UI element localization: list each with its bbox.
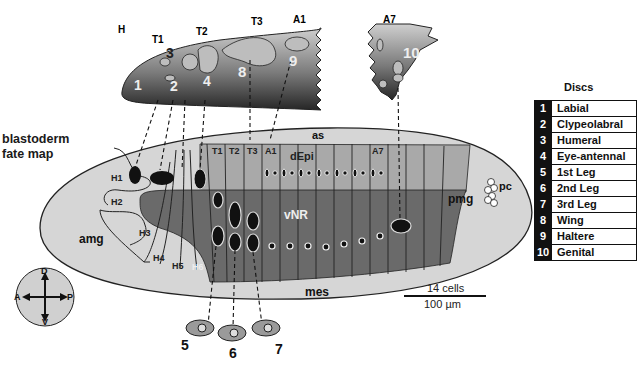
labial-anlage xyxy=(129,166,141,184)
legend-number: 5 xyxy=(535,165,552,181)
legend-row: 51st Leg xyxy=(535,165,637,181)
trunk-label-t1: T1 xyxy=(212,146,223,156)
trunk-label-a7: A7 xyxy=(372,146,384,156)
figure-title-line1: blastoderm xyxy=(2,132,69,147)
legend-number: 1 xyxy=(535,101,552,117)
larva-label-a1: A1 xyxy=(293,14,306,25)
larva-label-t1: T1 xyxy=(152,34,164,45)
eye-antennal-anlage xyxy=(194,169,206,189)
legend-row: 9Haltere xyxy=(535,229,637,245)
legend-row: 4Eye-antennal xyxy=(535,149,637,165)
scale-bar-length: 100 µm xyxy=(424,298,461,310)
disc-number-3: 3 xyxy=(166,45,174,61)
legend-number: 2 xyxy=(535,117,552,133)
legend-number: 8 xyxy=(535,213,552,229)
legend-name: Labial xyxy=(552,101,637,117)
region-label-mes: mes xyxy=(305,285,329,299)
legend-number: 4 xyxy=(535,149,552,165)
trunk-label-t2: T2 xyxy=(229,146,240,156)
leg-disc-number-6: 6 xyxy=(229,345,237,361)
scale-bar-cells: 14 cells xyxy=(427,282,464,294)
legend-name: Haltere xyxy=(552,229,637,245)
larva-posterior xyxy=(368,24,438,100)
disc-number-9: 9 xyxy=(289,52,297,69)
larva-label-a7: A7 xyxy=(383,14,396,25)
disc-legend: Discs 1Labial 2Clypeolabral 3Humeral 4Ey… xyxy=(534,100,637,261)
legend-table: 1Labial 2Clypeolabral 3Humeral 4Eye-ante… xyxy=(534,100,637,261)
legend-name: Humeral xyxy=(552,133,637,149)
head-label-h4: H4 xyxy=(153,253,165,263)
clypeolabral-anlage xyxy=(150,171,174,185)
legend-name: 2nd Leg xyxy=(552,181,637,197)
leg-disc-number-7: 7 xyxy=(275,341,283,357)
legend-name: 1st Leg xyxy=(552,165,637,181)
compass-label-ventral: V xyxy=(42,317,48,327)
compass-label-dorsal: D xyxy=(41,266,48,276)
legend-name: Eye-antennal xyxy=(552,149,637,165)
dEpi-region xyxy=(200,144,470,192)
legend-number: 9 xyxy=(535,229,552,245)
legend-row: 8Wing xyxy=(535,213,637,229)
legend-row: 1Labial xyxy=(535,101,637,117)
disc-number-10: 10 xyxy=(403,44,420,61)
head-label-h6: H6 xyxy=(192,262,204,272)
legend-title: Discs xyxy=(564,81,593,93)
head-label-h2: H2 xyxy=(111,197,123,207)
head-label-h5: H5 xyxy=(172,261,184,271)
head-label-h3: H3 xyxy=(139,228,151,238)
larva-label-t2: T2 xyxy=(196,26,208,37)
leg-disc-number-5: 5 xyxy=(181,337,189,353)
disc-number-4: 4 xyxy=(203,73,211,89)
legend-name: Clypeolabral xyxy=(552,117,637,133)
compass-label-anterior: A xyxy=(14,292,21,302)
legend-row: 73rd Leg xyxy=(535,197,637,213)
legend-name: Wing xyxy=(552,213,637,229)
region-label-pc: pc xyxy=(499,180,512,192)
larva-label-h: H xyxy=(118,24,125,35)
larva-label-t3: T3 xyxy=(251,16,263,27)
legend-row: 62nd Leg xyxy=(535,181,637,197)
trunk-label-t3: T3 xyxy=(247,146,258,156)
region-label-as: as xyxy=(312,129,324,141)
legend-row: 2Clypeolabral xyxy=(535,117,637,133)
region-label-dEpi: dEpi xyxy=(290,150,314,162)
region-label-amg: amg xyxy=(79,232,104,246)
legend-number: 6 xyxy=(535,181,552,197)
compass-label-posterior: P xyxy=(67,292,73,302)
trunk-label-a1: A1 xyxy=(265,146,277,156)
region-label-vNR: vNR xyxy=(284,208,308,222)
head-label-h1: H1 xyxy=(111,173,123,183)
disc-number-8: 8 xyxy=(238,63,246,80)
legend-number: 7 xyxy=(535,197,552,213)
legend-row: 3Humeral xyxy=(535,133,637,149)
legend-row: 10Genital xyxy=(535,245,637,261)
legend-name: Genital xyxy=(552,245,637,261)
legend-number: 10 xyxy=(535,245,552,261)
figure-title-line2: fate map xyxy=(2,147,53,162)
region-label-pmg: pmg xyxy=(448,192,473,206)
disc-number-2: 2 xyxy=(170,78,178,94)
legend-name: 3rd Leg xyxy=(552,197,637,213)
legend-number: 3 xyxy=(535,133,552,149)
disc-number-1: 1 xyxy=(134,77,142,93)
